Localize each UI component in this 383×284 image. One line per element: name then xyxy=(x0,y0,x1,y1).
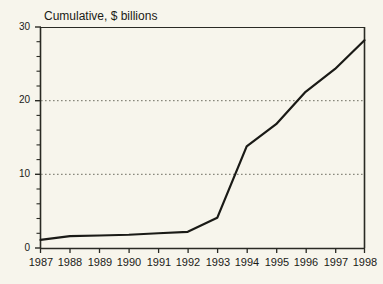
xtick-label-1990: 1990 xyxy=(114,256,144,268)
xtick-label-1998: 1998 xyxy=(350,256,380,268)
ytick-label-20: 20 xyxy=(6,94,30,105)
xtick-label-1992: 1992 xyxy=(173,256,203,268)
plot-frame xyxy=(40,27,365,249)
gridlines xyxy=(41,101,364,175)
xtick-label-1987: 1987 xyxy=(26,256,56,268)
xtick-label-1994: 1994 xyxy=(232,256,262,268)
chart-plot-area xyxy=(0,0,383,284)
data-series-line xyxy=(41,40,365,240)
xtick-label-1996: 1996 xyxy=(291,256,321,268)
cumulative-investment-line-chart: Cumulative, $ billions xyxy=(0,0,383,284)
ytick-label-0: 0 xyxy=(6,242,30,253)
xtick-label-1993: 1993 xyxy=(203,256,233,268)
xtick-label-1995: 1995 xyxy=(262,256,292,268)
xtick-label-1997: 1997 xyxy=(321,256,351,268)
xtick-label-1989: 1989 xyxy=(85,256,115,268)
ytick-label-10: 10 xyxy=(6,168,30,179)
xtick-label-1988: 1988 xyxy=(55,256,85,268)
xtick-label-1991: 1991 xyxy=(144,256,174,268)
ytick-label-30: 30 xyxy=(6,21,30,32)
